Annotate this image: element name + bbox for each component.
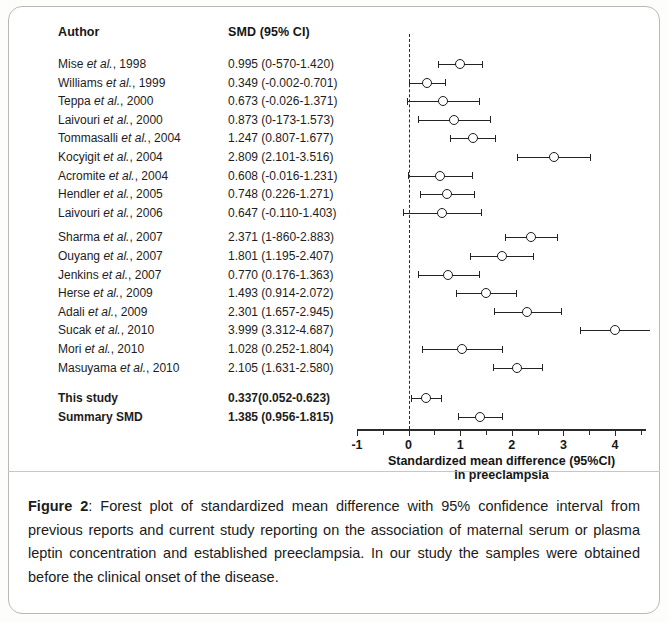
point-estimate-marker: [481, 288, 491, 298]
point-estimate-marker: [437, 208, 447, 218]
figure-caption: Figure 2: Forest plot of standardized me…: [28, 495, 640, 589]
study-smd-value: 0.337(0.052-0.623): [228, 391, 330, 405]
confidence-interval-cap-high: [490, 116, 491, 123]
study-author-label: Summary SMD: [58, 410, 143, 424]
study-smd-value: 1.801 (1.195-2.407): [228, 249, 333, 263]
point-estimate-marker: [526, 232, 536, 242]
study-smd-value: 1.493 (0.914-2.072): [228, 286, 333, 300]
x-axis-tick-minor: [641, 429, 642, 435]
x-axis-tick-major: [615, 429, 616, 436]
confidence-interval-cap-high: [502, 413, 503, 420]
study-author-label: Ouyang et al., 2007: [58, 249, 163, 263]
point-estimate-marker: [438, 96, 448, 106]
point-estimate-marker: [468, 133, 478, 143]
x-axis-tick-label: 2: [508, 438, 515, 452]
confidence-interval-cap-low: [411, 395, 412, 402]
confidence-interval-cap-high: [445, 79, 446, 86]
confidence-interval-cap-low: [517, 154, 518, 161]
study-smd-value: 0.770 (0.176-1.363): [228, 268, 333, 282]
point-estimate-marker: [457, 344, 467, 354]
confidence-interval-cap-high: [479, 271, 480, 278]
point-estimate-marker: [435, 171, 445, 181]
confidence-interval-cap-high: [474, 191, 475, 198]
point-estimate-marker: [442, 189, 452, 199]
x-axis-tick-major: [409, 429, 410, 436]
study-smd-value: 0.873 (0-173-1.573): [228, 113, 334, 127]
point-estimate-marker: [421, 393, 431, 403]
null-reference-line: [409, 34, 410, 429]
study-author-label: Herse et al., 2009: [58, 286, 153, 300]
x-axis-title-line2: in preeclampsia: [357, 468, 646, 482]
study-author-label: Williams et al., 1999: [58, 76, 165, 90]
confidence-interval-cap-high: [482, 61, 483, 68]
confidence-interval-cap-high: [441, 395, 442, 402]
x-axis-tick-minor: [486, 429, 487, 435]
x-axis-title-line1: Standardized mean difference (95%CI): [357, 454, 646, 468]
point-estimate-marker: [443, 270, 453, 280]
confidence-interval-cap-high: [533, 253, 534, 260]
study-smd-value: 0.647 (-0.110-1.403): [228, 206, 337, 220]
x-axis-tick-major: [357, 429, 358, 436]
study-author-label: This study: [58, 391, 118, 405]
confidence-interval-cap-high: [472, 172, 473, 179]
study-author-label: Adali et al., 2009: [58, 305, 147, 319]
confidence-interval-cap-high: [516, 290, 517, 297]
study-author-label: Mise et al., 1998: [58, 57, 146, 71]
study-smd-value: 2.371 (1-860-2.883): [228, 230, 334, 244]
figure-caption-text: : Forest plot of standardized mean diffe…: [28, 498, 640, 585]
figure-caption-label: Figure 2: [28, 498, 88, 514]
x-axis-tick-minor: [538, 429, 539, 435]
study-smd-value: 3.999 (3.312-4.687): [228, 323, 333, 337]
x-axis-tick-minor: [383, 429, 384, 435]
plot-area: -101234 Standardized mean difference (95…: [357, 18, 652, 474]
confidence-interval-cap-low: [450, 135, 451, 142]
study-author-label: Teppa et al., 2000: [58, 94, 153, 108]
study-author-label: Acromite et al., 2004: [58, 169, 168, 183]
confidence-interval-cap-low: [505, 234, 506, 241]
confidence-interval-cap-low: [493, 364, 494, 371]
forest-plot-figure: Author SMD (95% CI) Mise et al., 19980.9…: [0, 0, 668, 474]
confidence-interval-cap-high: [481, 209, 482, 216]
confidence-interval-cap-high: [495, 135, 496, 142]
confidence-interval-cap-low: [422, 346, 423, 353]
study-author-label: Jenkins et al., 2007: [58, 268, 161, 282]
confidence-interval-cap-high: [479, 98, 480, 105]
study-author-label: Masuyama et al., 2010: [58, 361, 179, 375]
confidence-interval-cap-low: [458, 413, 459, 420]
x-axis-tick-label: 1: [457, 438, 464, 452]
point-estimate-marker: [449, 115, 459, 125]
study-author-label: Tommasalli et al., 2004: [58, 131, 181, 145]
confidence-interval-cap-low: [420, 191, 421, 198]
x-axis-tick-label: -1: [351, 438, 362, 452]
study-smd-value: 0.608 (-0.016-1.231): [228, 169, 337, 183]
point-estimate-marker: [497, 251, 507, 261]
confidence-interval-cap-low: [580, 327, 581, 334]
confidence-interval-cap-high: [502, 346, 503, 353]
confidence-interval-cap-low: [438, 61, 439, 68]
column-header-smd: SMD (95% CI): [228, 25, 310, 39]
study-smd-value: 2.301 (1.657-2.945): [228, 305, 333, 319]
x-axis-tick-label: 4: [612, 438, 619, 452]
study-author-label: Sucak et al., 2010: [58, 323, 154, 337]
confidence-interval-cap-high: [557, 234, 558, 241]
confidence-interval-cap-low: [456, 290, 457, 297]
study-author-label: Laivouri et al., 2000: [58, 113, 163, 127]
confidence-interval-cap-high: [590, 154, 591, 161]
study-smd-value: 1.247 (0.807-1.677): [228, 131, 333, 145]
confidence-interval-cap-low: [494, 308, 495, 315]
study-author-label: Sharma et al., 2007: [58, 230, 163, 244]
x-axis-tick-minor: [589, 429, 590, 435]
study-author-label: Hendler et al., 2005: [58, 187, 163, 201]
point-estimate-marker: [422, 78, 432, 88]
point-estimate-marker: [522, 307, 532, 317]
point-estimate-marker: [475, 412, 485, 422]
study-smd-value: 0.748 (0.226-1.271): [228, 187, 333, 201]
x-axis-line: [357, 429, 646, 431]
x-axis-tick-major: [512, 429, 513, 436]
confidence-interval-cap-low: [418, 116, 419, 123]
study-smd-value: 2.809 (2.101-3.516): [228, 150, 333, 164]
study-smd-value: 2.105 (1.631-2.580): [228, 361, 333, 375]
x-axis-tick-major: [460, 429, 461, 436]
x-axis-tick-label: 3: [560, 438, 567, 452]
confidence-interval-cap-low: [418, 271, 419, 278]
